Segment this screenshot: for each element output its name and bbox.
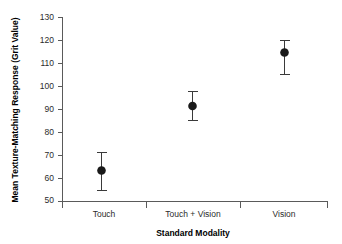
x-tick-label-touch: Touch xyxy=(93,209,116,219)
data-point-touch-vision xyxy=(188,92,198,121)
y-axis-title: Mean Texture-Matching Response (Grit Val… xyxy=(10,17,20,202)
y-tick-label-70: 70 xyxy=(45,150,55,160)
y-tick-group: 130 120 110 100 90 80 70 60 50 xyxy=(40,12,63,205)
x-tick-group xyxy=(63,202,328,208)
scatter-plot-svg: Mean Texture-Matching Response (Grit Val… xyxy=(0,0,342,244)
data-point-touch xyxy=(97,153,107,191)
y-tick-label-100: 100 xyxy=(40,81,54,91)
y-tick-label-110: 110 xyxy=(40,58,54,68)
y-tick-label-60: 60 xyxy=(45,173,55,183)
y-tick-label-130: 130 xyxy=(40,12,54,22)
data-point-vision xyxy=(280,41,290,75)
y-tick-label-80: 80 xyxy=(45,127,55,137)
marker-vision xyxy=(280,48,289,57)
chart-container: Mean Texture-Matching Response (Grit Val… xyxy=(0,0,342,244)
x-axis-title: Standard Modality xyxy=(156,228,230,238)
y-tick-label-90: 90 xyxy=(45,104,55,114)
x-tick-label-touch-vision: Touch + Vision xyxy=(165,209,221,219)
marker-touch-vision xyxy=(188,102,197,111)
x-tick-label-vision: Vision xyxy=(273,209,296,219)
y-tick-label-50: 50 xyxy=(45,195,55,205)
marker-touch xyxy=(97,166,106,175)
y-tick-label-120: 120 xyxy=(40,35,54,45)
